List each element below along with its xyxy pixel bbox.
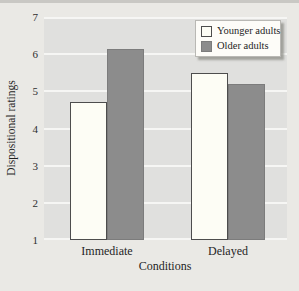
gridline (44, 17, 287, 19)
bar-younger-adults-delayed (191, 73, 228, 240)
y-tick-label-1: 1 (0, 234, 38, 246)
legend-label-younger-adults: Younger adults (217, 25, 280, 37)
legend: Younger adults Older adults (195, 20, 281, 57)
legend-label-older-adults: Older adults (217, 40, 269, 52)
y-tick-label-6: 6 (0, 48, 38, 60)
y-tick-label-2: 2 (0, 197, 38, 209)
x-axis-title: Conditions (139, 259, 192, 274)
top-edge-strip (0, 0, 299, 3)
bar-older-adults-immediate (107, 49, 144, 240)
legend-item-older-adults: Older adults (201, 40, 276, 52)
legend-swatch-younger-adults (201, 26, 212, 37)
x-tick-label-delayed: Delayed (208, 244, 248, 259)
figure: 1234567 ImmediateDelayed Dispositional r… (0, 0, 299, 291)
bar-older-adults-delayed (228, 84, 265, 240)
bar-younger-adults-immediate (70, 102, 107, 240)
y-tick-label-7: 7 (0, 11, 38, 23)
legend-swatch-older-adults (201, 41, 212, 52)
y-axis-title: Dispositional ratings (5, 80, 17, 176)
x-tick-label-immediate: Immediate (81, 244, 132, 259)
legend-item-younger-adults: Younger adults (201, 25, 276, 37)
